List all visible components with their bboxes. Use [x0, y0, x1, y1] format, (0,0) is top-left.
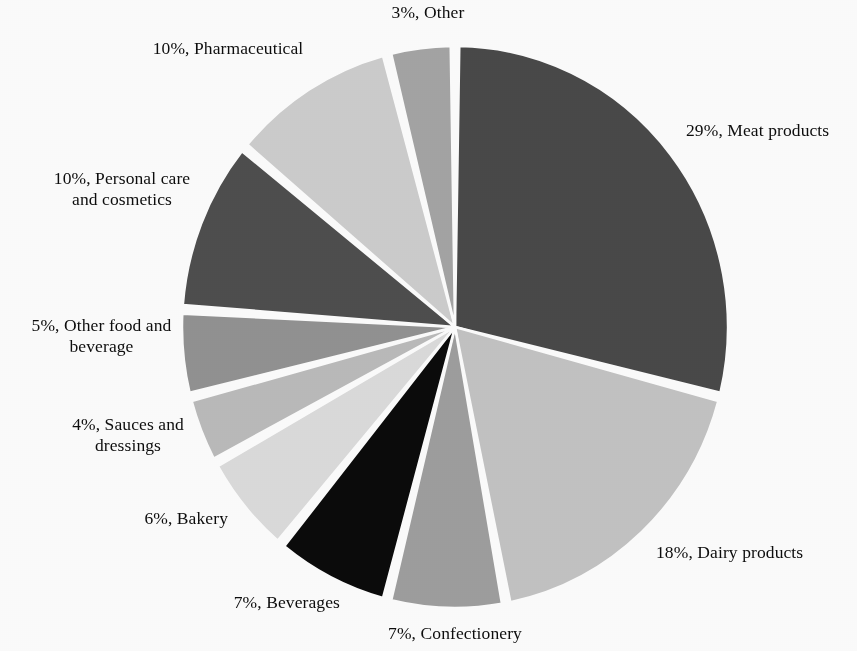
slice-label-dairy: 18%, Dairy products [656, 542, 857, 563]
slice-label-confectionery: 7%, Confectionery [330, 623, 580, 644]
slice-label-sauces-line2: dressings [28, 435, 228, 456]
slice-label-other: 3%, Other [298, 2, 558, 23]
slice-label-personal-care-line2: and cosmetics [12, 189, 232, 210]
slice-label-personal-care-line1: 10%, Personal care [12, 168, 232, 189]
slice-label-meat: 29%, Meat products [686, 120, 857, 141]
slice-label-pharmaceutical: 10%, Pharmaceutical [98, 38, 358, 59]
slice-label-bakery: 6%, Bakery [48, 508, 228, 529]
slice-label-other-food-line1: 5%, Other food and [0, 315, 209, 336]
slice-label-sauces-line1: 4%, Sauces and [28, 414, 228, 435]
slice-label-other-food-line2: beverage [0, 336, 209, 357]
pie-chart-figure: 3%, Other 10%, Pharmaceutical 10%, Perso… [0, 0, 857, 651]
slice-label-beverages: 7%, Beverages [140, 592, 340, 613]
